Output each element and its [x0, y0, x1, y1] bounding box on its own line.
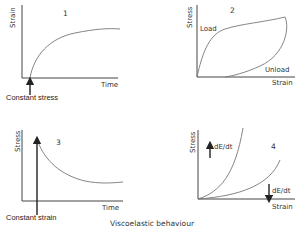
panel-1-creep: Strain Time 1 Constant stress	[6, 5, 120, 102]
panel-2-number: 2	[230, 6, 235, 15]
panel-4-xlabel: Strain	[272, 203, 293, 211]
panel-3-ylabel: Stress	[14, 130, 22, 152]
panel-3-relaxation-curve	[38, 142, 123, 183]
figure-caption: Viscoelastic behaviour	[110, 219, 195, 228]
panel-1-annotation: Constant stress	[6, 93, 58, 102]
panel-3-xlabel: Time	[101, 204, 119, 212]
panel-2-unload-label: Unload	[265, 66, 290, 74]
viscoelastic-diagram: Strain Time 1 Constant stress Stress Str…	[0, 0, 303, 237]
panel-1-axes	[22, 5, 118, 78]
panel-4-rate-up-label: dE/dt	[214, 143, 233, 151]
panel-1-xlabel: Time	[100, 81, 118, 89]
panel-2-xlabel: Strain	[272, 79, 293, 87]
panel-1-creep-curve	[30, 29, 120, 78]
panel-1-number: 1	[63, 9, 68, 18]
panel-3-number: 3	[56, 138, 61, 147]
panel-2-hysteresis: Stress Strain 2 Load Unload	[186, 5, 295, 87]
panel-1-ylabel: Strain	[9, 7, 17, 28]
panel-4-high-rate-curve	[198, 128, 243, 199]
panel-2-load-label: Load	[200, 25, 217, 33]
panel-4-rate-down-label: dE/dt	[272, 187, 291, 195]
panel-4-ylabel: Stress	[189, 131, 197, 153]
panel-4-strain-rate: Stress Strain 4 dE/dt dE/dt	[189, 128, 295, 211]
panel-2-ylabel: Stress	[186, 6, 194, 28]
panel-4-number: 4	[271, 142, 276, 151]
panel-3-relaxation: Stress Time 3 Constant strain	[6, 130, 123, 222]
panel-3-annotation: Constant strain	[6, 213, 56, 222]
